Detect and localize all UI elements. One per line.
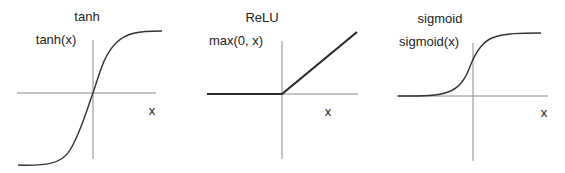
tanh-y-label: tanh(x) [36,32,76,47]
tanh-curve [18,31,162,165]
relu-y-label: max(0, x) [209,33,263,48]
relu-x-label: x [325,104,332,119]
sigmoid-panel: sigmoid sigmoid(x) x [397,11,548,161]
sigmoid-title: sigmoid [418,11,463,26]
activation-functions-diagram: tanh tanh(x) x ReLU max(0, x) x sigmoid … [0,0,565,173]
sigmoid-y-label: sigmoid(x) [399,34,459,49]
tanh-title: tanh [74,9,99,24]
tanh-panel: tanh tanh(x) x [17,9,162,165]
relu-title: ReLU [245,10,278,25]
relu-panel: ReLU max(0, x) x [207,10,358,159]
tanh-x-label: x [149,103,156,118]
sigmoid-x-label: x [541,105,548,120]
